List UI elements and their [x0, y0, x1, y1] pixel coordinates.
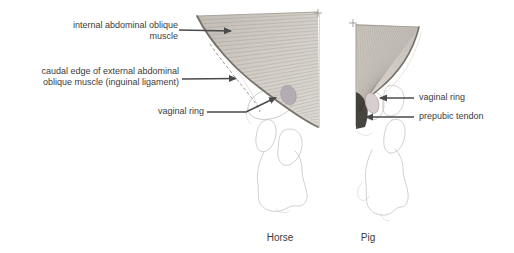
pig-illustration: [349, 19, 421, 221]
caption-pig: Pig: [342, 232, 394, 243]
caption-horse: Horse: [250, 232, 310, 243]
arrow-caudal-edge: [182, 79, 236, 80]
label-prepubic-tendon: prepubic tendon: [419, 111, 509, 122]
arrow-vaginal-ring-horse: [207, 98, 276, 113]
horse-illustration: [197, 9, 322, 213]
horse-internal-oblique-muscle: [197, 12, 320, 128]
anatomy-figure: internal abdominal oblique muscle caudal…: [0, 0, 514, 253]
arrow-internal-oblique: [179, 30, 231, 31]
label-vaginal-ring-pig: vaginal ring: [419, 92, 509, 103]
label-internal-abdominal-oblique-muscle: internal abdominal oblique muscle: [52, 20, 178, 42]
label-caudal-edge-external-oblique: caudal edge of external abdominal obliqu…: [19, 66, 179, 88]
label-vaginal-ring-horse: vaginal ring: [114, 106, 204, 117]
